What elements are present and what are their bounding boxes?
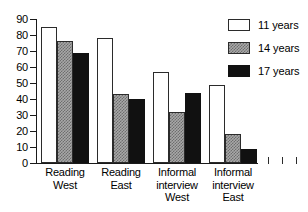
x-axis-category-label: Reading West bbox=[35, 166, 95, 191]
y-axis-tick-label: 80 bbox=[2, 30, 28, 41]
y-axis-tick bbox=[30, 19, 36, 20]
y-axis-tick bbox=[30, 83, 36, 84]
bar bbox=[225, 134, 241, 163]
legend-item: 11 years bbox=[228, 16, 299, 34]
legend-swatch-icon bbox=[228, 19, 250, 31]
bar bbox=[241, 149, 257, 163]
y-axis-tick bbox=[30, 51, 36, 52]
bar bbox=[73, 53, 89, 163]
chart-legend: 11 years14 years17 years bbox=[228, 16, 299, 85]
y-axis-line bbox=[36, 19, 37, 164]
y-axis-tick-label: 30 bbox=[2, 110, 28, 121]
bar bbox=[153, 72, 169, 163]
legend-swatch-icon bbox=[228, 65, 250, 77]
legend-item-label: 14 years bbox=[258, 43, 299, 54]
legend-item: 17 years bbox=[228, 62, 299, 80]
legend-item: 14 years bbox=[228, 39, 299, 57]
axis-stub-tick bbox=[268, 157, 269, 164]
y-axis-tick-label: 10 bbox=[2, 142, 28, 153]
x-axis-line bbox=[36, 163, 258, 164]
legend-item-label: 17 years bbox=[258, 66, 299, 77]
y-axis-tick-label: 40 bbox=[2, 94, 28, 105]
y-axis-tick bbox=[30, 131, 36, 132]
bar-chart: 0102030405060708090 Reading WestReading … bbox=[0, 0, 308, 212]
bar bbox=[57, 41, 73, 163]
axis-stub-tick bbox=[282, 157, 283, 164]
bar bbox=[97, 38, 113, 163]
y-axis-tick bbox=[30, 67, 36, 68]
y-axis-tick-label: 70 bbox=[2, 46, 28, 57]
x-axis-category-label: Reading East bbox=[91, 166, 151, 191]
bar bbox=[209, 85, 225, 163]
bar bbox=[169, 112, 185, 163]
legend-swatch-icon bbox=[228, 42, 250, 54]
bar bbox=[113, 94, 129, 163]
x-axis-category-label: Informal interview West bbox=[147, 166, 207, 204]
x-axis-category-label: Informal interview East bbox=[203, 166, 263, 204]
bar bbox=[185, 93, 201, 163]
y-axis-tick bbox=[30, 147, 36, 148]
y-axis-tick bbox=[30, 99, 36, 100]
y-axis-tick-label: 50 bbox=[2, 78, 28, 89]
y-axis-tick-label: 20 bbox=[2, 126, 28, 137]
y-axis-tick bbox=[30, 35, 36, 36]
bar bbox=[129, 99, 145, 163]
bar bbox=[41, 27, 57, 163]
legend-item-label: 11 years bbox=[258, 20, 299, 31]
y-axis-tick bbox=[30, 115, 36, 116]
y-axis-tick bbox=[30, 163, 36, 164]
axis-stub-tick bbox=[296, 157, 297, 164]
y-axis-tick-label: 90 bbox=[2, 14, 28, 25]
y-axis-tick-label: 0 bbox=[2, 158, 28, 169]
y-axis-tick-label: 60 bbox=[2, 62, 28, 73]
